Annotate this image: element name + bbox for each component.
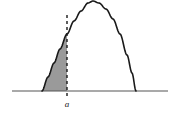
axis-label-a: a	[65, 99, 70, 109]
figure-container: a	[0, 0, 178, 118]
statistics-curve-figure: a	[0, 0, 178, 118]
